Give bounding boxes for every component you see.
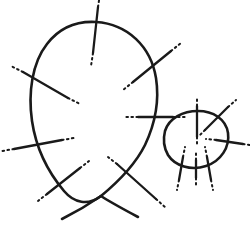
tick-loop-right-dots-1: [243, 144, 250, 145]
free-tail-left: [62, 196, 101, 219]
tick-oval-upper-right-dots-0: [171, 43, 181, 51]
tick-loop-bottom-right: [207, 157, 211, 180]
tick-oval-lower-left-dots-0: [38, 194, 47, 201]
tick-loop-bottom-left-dots-0: [183, 147, 185, 157]
tick-oval-top-dots-1: [91, 53, 93, 66]
tick-loop-upper-right-dots-0: [228, 100, 236, 107]
tick-loop-bottom-left: [179, 157, 183, 180]
tick-loop-bottom-right-dots-0: [205, 147, 207, 157]
tick-loop-bottom-left-dots-1: [177, 180, 179, 190]
curve-group: [31, 22, 229, 219]
tick-loop-right-dots-0: [206, 139, 216, 140]
tick-oval-top-dots-0: [98, 0, 100, 7]
curve-diagram: [0, 0, 250, 237]
tick-oval-lower-mid-dots-0: [108, 157, 117, 164]
tick-oval-upper-right-dots-1: [123, 82, 133, 90]
tick-loop-upper-right: [205, 107, 228, 130]
tick-oval-lower-left-dots-1: [80, 161, 89, 168]
tick-oval-top: [93, 7, 98, 53]
tick-oval-left-dots-0: [2, 149, 14, 151]
tick-oval-left-dots-1: [62, 138, 74, 140]
figure-canvas: [0, 0, 250, 237]
tick-oval-upper-right: [133, 51, 171, 82]
tick-oval-upper-left-dots-1: [68, 98, 80, 104]
tick-oval-lower-mid: [117, 164, 156, 199]
tick-oval-lower-mid-dots-1: [156, 199, 165, 207]
tick-loop-bottom-right-dots-1: [211, 180, 213, 190]
tick-oval-upper-left-dots-0: [11, 66, 23, 72]
tick-loop-upper-right-dots-1: [198, 130, 205, 137]
tick-loop-right: [216, 140, 243, 144]
free-tail-right: [101, 196, 138, 217]
